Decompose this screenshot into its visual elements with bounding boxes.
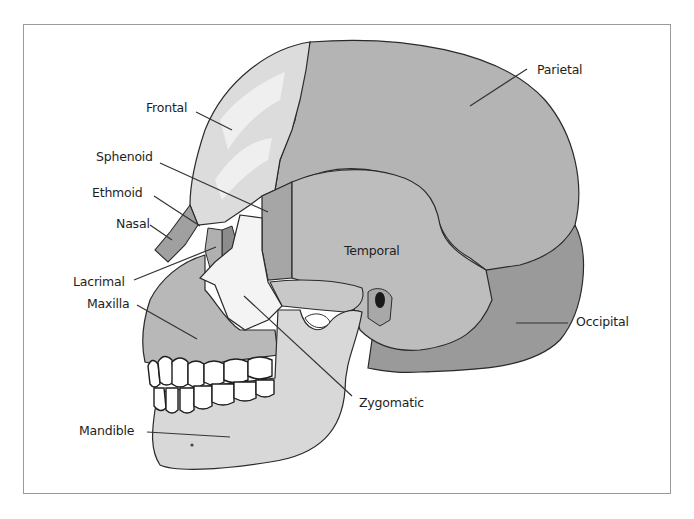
label-frontal: Frontal <box>146 100 187 115</box>
label-mandible: Mandible <box>79 423 134 438</box>
zygomatic-arch <box>270 280 363 312</box>
label-nasal: Nasal <box>116 216 150 231</box>
label-temporal: Temporal <box>344 243 400 258</box>
label-lacrimal: Lacrimal <box>73 274 125 289</box>
label-maxilla: Maxilla <box>87 296 130 311</box>
label-occipital: Occipital <box>576 314 629 329</box>
label-sphenoid: Sphenoid <box>96 149 153 164</box>
sphenoid-bone <box>262 182 292 280</box>
label-parietal: Parietal <box>537 62 582 77</box>
label-zygomatic: Zygomatic <box>359 395 424 410</box>
label-ethmoid: Ethmoid <box>92 185 143 200</box>
skull-illustration <box>0 0 694 519</box>
